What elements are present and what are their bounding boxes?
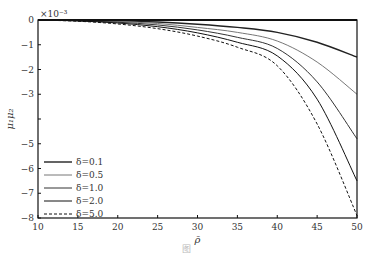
x-tick-label: 40 bbox=[272, 222, 284, 232]
y-tick-label: −2 bbox=[21, 65, 34, 75]
legend-label: δ=0.1 bbox=[76, 157, 103, 167]
legend-label: δ=2.0 bbox=[76, 196, 104, 206]
series-line-2 bbox=[38, 20, 357, 139]
y-axis-label: μ₁μ₂ bbox=[4, 108, 15, 129]
x-tick-label: 35 bbox=[232, 222, 244, 232]
y-tick-label: −6 bbox=[21, 164, 35, 174]
x-tick-label: 15 bbox=[72, 222, 84, 232]
x-tick-label: 50 bbox=[351, 222, 363, 232]
y-tick-label: −1 bbox=[21, 40, 34, 50]
x-tick-label: 10 bbox=[32, 222, 44, 232]
series-line-1 bbox=[38, 20, 357, 94]
legend-label: δ=1.0 bbox=[76, 183, 104, 193]
figure-caption: 图 bbox=[0, 242, 372, 255]
y-tick-label: −8 bbox=[21, 213, 35, 223]
line-chart: 1015202530354045500−1−2−3−5−6−7−8×10⁻³ρ̄… bbox=[0, 0, 372, 255]
y-tick-label: 0 bbox=[28, 15, 34, 25]
x-tick-label: 25 bbox=[152, 222, 164, 232]
legend-label: δ=0.5 bbox=[76, 170, 104, 180]
legend-label: δ=5.0 bbox=[76, 209, 104, 219]
y-tick-label: −3 bbox=[21, 89, 35, 99]
y-tick-label: −7 bbox=[21, 188, 35, 198]
x-tick-label: 20 bbox=[112, 222, 124, 232]
y-multiplier: ×10⁻³ bbox=[40, 9, 68, 19]
x-tick-label: 45 bbox=[311, 222, 323, 232]
series-line-0 bbox=[38, 20, 357, 57]
x-tick-label: 30 bbox=[192, 222, 204, 232]
y-tick-label: −5 bbox=[21, 139, 35, 149]
